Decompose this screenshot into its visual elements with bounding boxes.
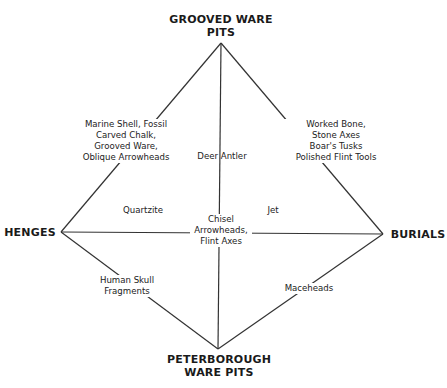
node-grooved-ware-pits: GROOVED WARE PITS bbox=[160, 13, 282, 39]
diagram-lines bbox=[0, 0, 447, 388]
edge-top-bottom bbox=[218, 43, 221, 349]
node-peterborough-ware-pits: PETERBOROUGH WARE PITS bbox=[167, 353, 271, 379]
label-maceheads: Maceheads bbox=[281, 283, 337, 294]
node-burials: BURIALS bbox=[390, 228, 446, 241]
label-human-skull-fragments: Human Skull Fragments bbox=[94, 275, 160, 297]
label-deer-antler: Deer Antler bbox=[192, 151, 252, 162]
label-jet: Jet bbox=[261, 205, 285, 216]
label-top-right-edge: Worked Bone, Stone Axes Boar's Tusks Pol… bbox=[280, 119, 392, 163]
label-top-left-edge: Marine Shell, Fossil Carved Chalk, Groov… bbox=[72, 119, 180, 163]
label-center-crossing: Chisel Arrowheads, Flint Axes bbox=[190, 214, 252, 247]
node-henges: HENGES bbox=[2, 226, 58, 239]
label-quartzite: Quartzite bbox=[118, 205, 168, 216]
